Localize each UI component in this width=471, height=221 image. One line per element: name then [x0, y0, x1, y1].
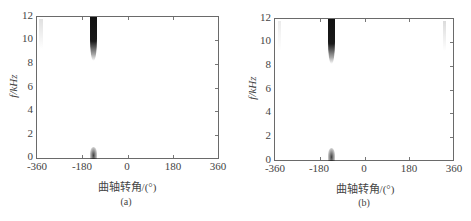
plot-area-b — [274, 18, 454, 161]
ytick-2: 2 — [253, 129, 271, 141]
y-axis-label-a: f/kHz — [7, 66, 19, 106]
high-freq-streak-b — [328, 19, 335, 64]
faint-streak-a — [39, 19, 43, 49]
xtick-180: 180 — [156, 160, 190, 172]
panel-caption-b: (b) — [349, 197, 379, 208]
ytick-10: 10 — [15, 32, 33, 44]
xtick-minus360: -360 — [258, 162, 292, 174]
plot-area-a — [36, 16, 219, 159]
ytick-12: 12 — [253, 11, 271, 23]
ytick-2: 2 — [15, 127, 33, 139]
low-freq-blob-a — [90, 147, 97, 159]
low-freq-blob-b — [328, 148, 335, 161]
panel-caption-a: (a) — [111, 196, 141, 207]
x-axis-label-b: 曲轴转角/(°) — [325, 180, 405, 196]
ytick-10: 10 — [253, 34, 271, 46]
y-axis-label-b: f/kHz — [246, 68, 258, 108]
high-freq-streak-a — [90, 17, 97, 61]
xtick-0: 0 — [347, 162, 381, 174]
x-axis-label-a: 曲轴转角/(°) — [87, 178, 167, 194]
panel-b: 12 10 8 6 4 2 0 -360 -180 0 180 360 f/kH… — [238, 0, 471, 221]
xtick-180: 180 — [392, 162, 426, 174]
xtick-minus360: -360 — [20, 160, 54, 172]
xtick-0: 0 — [110, 160, 144, 172]
xtick-minus180: -180 — [302, 162, 336, 174]
faint-streak-right-b — [443, 21, 446, 51]
ytick-12: 12 — [15, 9, 33, 21]
xtick-360: 360 — [201, 160, 235, 172]
xtick-minus180: -180 — [65, 160, 99, 172]
xtick-360: 360 — [437, 162, 471, 174]
faint-streak-left-b — [278, 21, 281, 51]
panel-a: 12 10 8 6 4 2 0 -360 -180 0 180 360 f/kH… — [0, 0, 235, 221]
